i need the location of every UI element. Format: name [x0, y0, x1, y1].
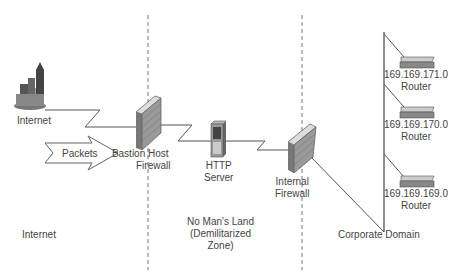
link-internal-backbone [312, 158, 384, 232]
router-169-ip: 169.169.169.0 [384, 188, 448, 200]
brick-wall-firewall-icon [288, 124, 316, 173]
router-169-name: Router [384, 200, 448, 212]
internal-label-line2: Firewall [275, 188, 309, 200]
http-server-label: HTTP Server [204, 160, 233, 184]
router-170-name: Router [384, 131, 448, 143]
link-router-171 [384, 34, 404, 57]
router-171-name: Router [384, 81, 448, 93]
router-169-label: 169.169.169.0 Router [384, 188, 448, 212]
zone-label-corporate: Corporate Domain [338, 229, 420, 241]
bastion-label-line2: Firewall [110, 160, 170, 172]
http-label-line1: HTTP [204, 160, 233, 172]
brick-wall-firewall-icon [136, 96, 161, 150]
router-170-ip: 169.169.170.0 [384, 119, 448, 131]
router-icon [400, 107, 434, 118]
link-http-internal [222, 141, 292, 150]
router-170-label: 169.169.170.0 Router [384, 119, 448, 143]
dmz-label-line2: (Demilitarized [187, 228, 254, 240]
internal-label-line1: Internal [275, 176, 309, 188]
internet-node-label: Internet [17, 115, 51, 127]
server-tower-icon [211, 121, 226, 157]
zone-label-dmz: No Man's Land (Demilitarized Zone) [187, 216, 254, 252]
link-router-169 [384, 154, 404, 177]
city-buildings-icon [14, 62, 46, 110]
http-label-line2: Server [204, 172, 233, 184]
bastion-firewall-label: Bastion Host Firewall [110, 148, 170, 172]
internal-firewall-label: Internal Firewall [275, 176, 309, 200]
router-icon [400, 176, 434, 187]
router-icon [400, 57, 434, 68]
dmz-label-line1: No Man's Land [187, 216, 254, 228]
router-171-label: 169.169.171.0 Router [384, 69, 448, 93]
zone-label-internet: Internet [22, 229, 56, 241]
packets-label: Packets [62, 148, 98, 160]
link-internet-bastion [45, 110, 140, 127]
bastion-label-line1: Bastion Host [110, 148, 170, 160]
router-171-ip: 169.169.171.0 [384, 69, 448, 81]
link-bastion-http [160, 125, 215, 141]
dmz-label-line3: Zone) [187, 240, 254, 252]
